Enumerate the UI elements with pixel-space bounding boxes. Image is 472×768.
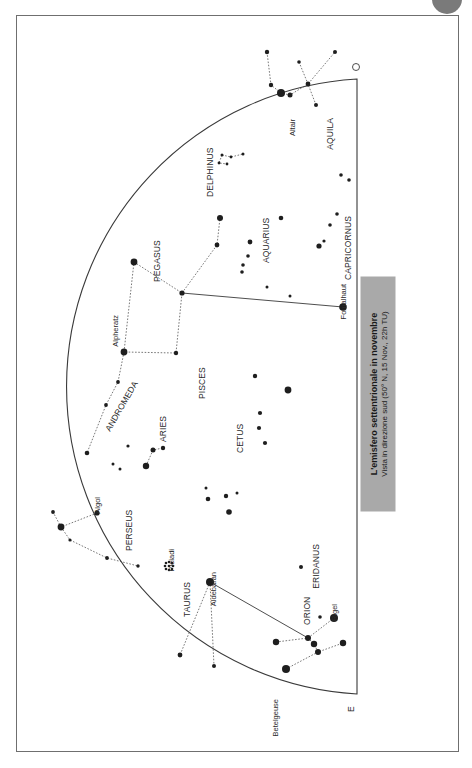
label-cetus: CETUS <box>235 423 245 453</box>
caption-title: L'emisfero settentrionale in novembre <box>368 312 378 475</box>
label-aquarius: AQUARIUS <box>261 218 271 263</box>
label-alpheratz: Alpheratz <box>111 315 120 347</box>
caption-subtitle: Vista in direzione sud (50° N, 15 Nov., … <box>379 311 388 477</box>
caption-box: L'emisfero settentrionale in novembre Vi… <box>360 276 395 511</box>
label-aries: ARIES <box>158 416 168 442</box>
star-labels: Altair Fomalhaut Alpheratz Algol Pleiadi… <box>93 119 348 737</box>
label-aldebaran: Aldebaran <box>209 572 218 606</box>
label-fomalhaut: Fomalhaut <box>339 283 348 319</box>
stars <box>51 50 351 673</box>
label-taurus: TAURUS <box>182 582 192 617</box>
label-pisces: PISCES <box>197 367 207 399</box>
label-andromeda: ANDROMEDA <box>103 379 140 433</box>
west-marker-icon <box>353 64 360 71</box>
constellation-lines <box>53 52 343 669</box>
label-perseus: PERSEUS <box>124 509 134 551</box>
label-pleiadi: Pleiadi <box>167 549 176 572</box>
east-marker: E <box>346 706 356 712</box>
label-rigel: Rigel <box>330 604 339 621</box>
label-eridanus: ERIDANUS <box>311 544 321 589</box>
label-aquila: AQUILA <box>325 118 335 150</box>
label-capricornus: CAPRICORNUS <box>343 216 353 280</box>
label-pegasus: PEGASUS <box>152 240 162 282</box>
constellation-labels: AQUILA DELPHINUS AQUARIUS CAPRICORNUS PE… <box>103 118 353 625</box>
label-algol: Algol <box>93 497 102 514</box>
label-orion: ORION <box>302 597 312 625</box>
label-betelgeuse: Betelgeuse <box>271 699 280 737</box>
label-delphinus: DELPHINUS <box>205 147 215 197</box>
star-map: E <box>0 0 472 768</box>
label-altair: Altair <box>288 119 297 137</box>
